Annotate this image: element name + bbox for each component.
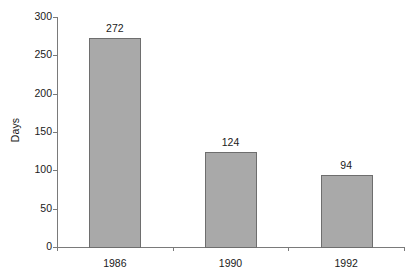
bar	[322, 176, 373, 248]
bar	[206, 153, 257, 248]
plot-area	[0, 0, 414, 279]
bar	[90, 39, 141, 248]
bar-chart: Days 050100150200250300 198619901992 272…	[0, 0, 414, 279]
